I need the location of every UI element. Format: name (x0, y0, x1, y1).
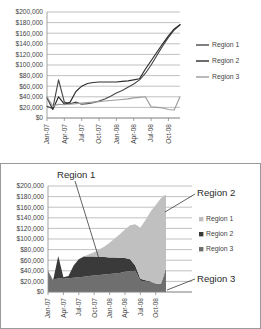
y-axis-tick-label: $140,000 (15, 40, 43, 47)
y-axis-tick-label: $160,000 (16, 204, 44, 211)
y-axis-tick-label: $100,000 (16, 235, 44, 242)
x-axis-tick-label: Apr-07 (60, 298, 68, 318)
legend-label: Region 1 (212, 41, 239, 49)
x-axis-tick-label: Jan-08 (106, 298, 113, 318)
x-axis-tick-label: Jan-07 (44, 298, 51, 318)
callout-label-region-2: Region 2 (197, 187, 235, 198)
y-axis-tick-label: $80,000 (20, 246, 44, 253)
y-axis-tick-label: $160,000 (15, 30, 43, 37)
y-axis-tick-label: $60,000 (19, 83, 43, 90)
y-axis-tick-label: $200,000 (15, 8, 43, 15)
x-axis-tick-label: Oct-08 (165, 124, 172, 144)
y-axis-tick-label: $100,000 (15, 61, 43, 68)
x-axis-tick-label: Apr-08 (130, 124, 138, 144)
x-axis-tick-label: Oct-07 (95, 124, 102, 144)
y-axis-tick-label: $0 (37, 288, 45, 295)
legend-swatch-region-1 (199, 217, 203, 221)
y-axis-tick-label: $20,000 (20, 278, 44, 285)
y-axis-tick-label: $40,000 (20, 267, 44, 274)
legend-swatch-region-2 (199, 232, 203, 236)
y-axis-tick-label: $120,000 (15, 51, 43, 58)
y-axis-tick-label: $80,000 (19, 72, 43, 79)
x-axis-tick-label: Jul-07 (75, 298, 82, 316)
x-axis-tick-label: Oct-08 (152, 298, 159, 318)
y-axis-tick-label: $20,000 (19, 104, 43, 111)
y-axis-tick-label: $120,000 (16, 225, 44, 232)
x-axis-tick-label: Jan-07 (43, 124, 50, 144)
x-axis-tick-label: Jul-08 (147, 124, 154, 142)
y-axis-tick-label: $200,000 (16, 182, 44, 189)
legend-label: Region 1 (206, 215, 233, 223)
x-axis-tick-label: Apr-07 (61, 124, 69, 144)
area-chart-svg: $0$20,000$40,000$60,000$80,000$100,000$1… (1, 164, 260, 328)
y-axis-tick-label: $40,000 (19, 93, 43, 100)
legend-label: Region 2 (206, 230, 233, 238)
x-axis-tick-label: Jul-07 (78, 124, 85, 142)
callout-leader-region-3 (167, 279, 195, 290)
legend-label: Region 3 (212, 73, 239, 81)
x-axis-tick-label: Apr-08 (121, 298, 129, 318)
x-axis-tick-label: Oct-07 (91, 298, 98, 318)
y-axis-tick-label: $60,000 (20, 257, 44, 264)
x-axis-tick-label: Jul-08 (137, 298, 144, 316)
x-axis-tick-label: Jan-08 (113, 124, 120, 144)
line-chart-svg: $0$20,000$40,000$60,000$80,000$100,000$1… (0, 0, 261, 163)
y-axis-tick-label: $180,000 (15, 19, 43, 26)
callout-label-region-1: Region 1 (57, 169, 95, 180)
legend-label: Region 2 (212, 57, 239, 65)
legend-swatch-region-3 (199, 247, 203, 251)
chart-page: $0$20,000$40,000$60,000$80,000$100,000$1… (0, 0, 261, 329)
line-chart-panel: $0$20,000$40,000$60,000$80,000$100,000$1… (0, 0, 261, 163)
y-axis-tick-label: $0 (36, 114, 44, 121)
y-axis-tick-label: $140,000 (16, 214, 44, 221)
y-axis-tick-label: $180,000 (16, 193, 44, 200)
series-line-region-1 (47, 25, 180, 109)
legend-label: Region 3 (206, 245, 233, 253)
callout-label-region-3: Region 3 (197, 273, 235, 284)
area-chart-panel: $0$20,000$40,000$60,000$80,000$100,000$1… (0, 163, 261, 329)
